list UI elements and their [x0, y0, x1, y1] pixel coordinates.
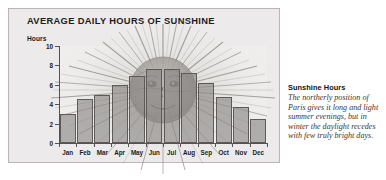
- y-axis-unit-label: Hours: [27, 35, 47, 42]
- caption-body: The northerly position of Paris gives it…: [288, 93, 386, 141]
- x-tick-mark: [94, 143, 95, 147]
- y-tick-label: 4: [49, 101, 53, 108]
- x-tick-mark: [59, 143, 60, 147]
- screenshot-root: AVERAGE DAILY HOURS OF SUNSHINE Hours: [0, 0, 386, 180]
- x-tick-label: Oct: [218, 149, 229, 156]
- bar: [77, 99, 93, 143]
- x-tick-label: Sep: [201, 149, 213, 156]
- y-tick-label: 0: [49, 140, 53, 147]
- sunshine-chart-panel: AVERAGE DAILY HOURS OF SUNSHINE Hours: [8, 8, 280, 163]
- bar: [216, 97, 232, 143]
- x-tick-label: Apr: [114, 149, 125, 156]
- y-tick-label: 2: [49, 120, 53, 127]
- bar: [129, 76, 145, 143]
- x-tick-label: Jul: [167, 149, 176, 156]
- x-tick-mark: [232, 143, 233, 147]
- x-tick-label: May: [131, 149, 143, 156]
- bar: [146, 69, 162, 143]
- bar: [164, 69, 180, 143]
- x-tick-label: Jun: [149, 149, 160, 156]
- plot-area: 0246810 JanFebMarAprMayJunJulAugSepOctNo…: [59, 46, 267, 143]
- caption-heading: Sunshine Hours: [288, 83, 384, 92]
- bar: [181, 73, 197, 143]
- y-tick-label: 10: [46, 43, 53, 50]
- x-tick-label: Nov: [235, 149, 247, 156]
- x-tick-mark: [198, 143, 199, 147]
- x-tick-mark: [146, 143, 147, 147]
- x-tick-mark: [111, 143, 112, 147]
- x-tick-label: Dec: [253, 149, 265, 156]
- bar: [198, 83, 214, 143]
- x-tick-mark: [267, 143, 268, 147]
- x-tick-mark: [250, 143, 251, 147]
- bar: [250, 119, 266, 143]
- bar-series: [59, 46, 267, 143]
- x-tick-label: Mar: [97, 149, 108, 156]
- x-tick-mark: [215, 143, 216, 147]
- x-tick-mark: [128, 143, 129, 147]
- y-tick-label: 6: [49, 81, 53, 88]
- x-tick-label: Aug: [183, 149, 195, 156]
- x-tick-label: Feb: [79, 149, 90, 156]
- bar: [112, 85, 128, 143]
- chart-title: AVERAGE DAILY HOURS OF SUNSHINE: [27, 16, 215, 26]
- bar: [60, 114, 76, 143]
- bar: [94, 95, 110, 144]
- x-tick-mark: [180, 143, 181, 147]
- bar: [233, 107, 249, 143]
- y-tick-label: 8: [49, 62, 53, 69]
- x-tick-label: Jan: [62, 149, 73, 156]
- x-tick-mark: [76, 143, 77, 147]
- caption-block: Sunshine Hours The northerly position of…: [288, 83, 384, 141]
- x-tick-mark: [163, 143, 164, 147]
